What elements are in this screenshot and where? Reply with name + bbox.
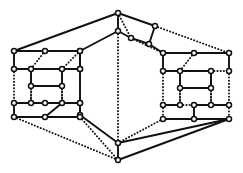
graph-vertex: left-r4-c4: [60, 101, 65, 106]
graph-vertex: left-r1-c1: [12, 49, 17, 54]
graph-vertex: left-r1-c3: [78, 49, 83, 54]
graph-vertex: left-r5-c1: [12, 115, 17, 120]
graph-vertex: ridge-mid: [129, 36, 134, 41]
graph-vertex: left-r3-c2: [60, 84, 65, 89]
graph-vertex: apex-top: [116, 11, 121, 16]
graph-edge: [155, 26, 229, 53]
graph-vertex: right-r2-c2: [178, 69, 183, 74]
solid-edge-layer: [14, 13, 229, 160]
graph-vertex: left-r2-c2: [29, 67, 34, 72]
graph-vertex: right-r5-c1: [161, 117, 166, 122]
graph-vertex: left-r2-c4: [78, 67, 83, 72]
graph-vertex: right-r3-c1: [178, 86, 183, 91]
graph-edge: [80, 31, 118, 51]
graph-edge: [180, 53, 194, 71]
graph-vertex: ridge-right-b: [147, 42, 152, 47]
graph-edge: [31, 51, 45, 69]
graph-vertex: left-r2-c1: [12, 67, 17, 72]
graph-edge: [62, 51, 80, 69]
graph-edge: [14, 13, 118, 51]
graph-vertex: right-r4-c4: [209, 103, 214, 108]
graph-vertex: left-r2-c3: [60, 67, 65, 72]
graph-vertex: right-r1-c2: [192, 51, 197, 56]
graph-vertex: left-r5-c3: [78, 115, 83, 120]
graph-vertex: base-upper: [116, 141, 121, 146]
graph-edge: [14, 117, 118, 160]
graph-edge: [118, 119, 163, 143]
graph-canvas: apex-topapex-innerridge-right-aridge-rig…: [0, 0, 243, 173]
figure-container: apex-topapex-innerridge-right-aridge-rig…: [0, 0, 243, 173]
graph-vertex: left-r5-c2: [43, 115, 48, 120]
graph-vertex: apex-inner: [116, 29, 121, 34]
graph-vertex: right-r1-c1: [161, 51, 166, 56]
graph-vertex: right-r2-c4: [227, 69, 232, 74]
graph-vertex: right-r1-c3: [227, 51, 232, 56]
graph-vertex: left-r4-c5: [78, 101, 83, 106]
graph-vertex: left-r4-c2: [29, 101, 34, 106]
graph-edge: [45, 103, 62, 117]
graph-vertex: base-lower: [116, 158, 121, 163]
graph-vertex: right-r4-c1: [161, 103, 166, 108]
graph-vertex: right-r4-c2: [178, 103, 183, 108]
graph-vertex: ridge-right-a: [153, 24, 158, 29]
graph-vertex: right-r5-c2: [192, 117, 197, 122]
graph-vertex: left-r3-c1: [29, 84, 34, 89]
graph-vertex: right-r3-c2: [209, 86, 214, 91]
graph-vertex: right-r2-c1: [161, 69, 166, 74]
graph-vertex: left-r1-c2: [43, 49, 48, 54]
graph-vertex: right-r5-c3: [227, 117, 232, 122]
graph-vertex: left-r4-c3: [43, 101, 48, 106]
graph-vertex: left-r4-c1: [12, 101, 17, 106]
graph-vertex: right-r2-c3: [209, 69, 214, 74]
graph-vertex: right-r4-c3: [192, 103, 197, 108]
graph-vertex: right-r4-c5: [227, 103, 232, 108]
